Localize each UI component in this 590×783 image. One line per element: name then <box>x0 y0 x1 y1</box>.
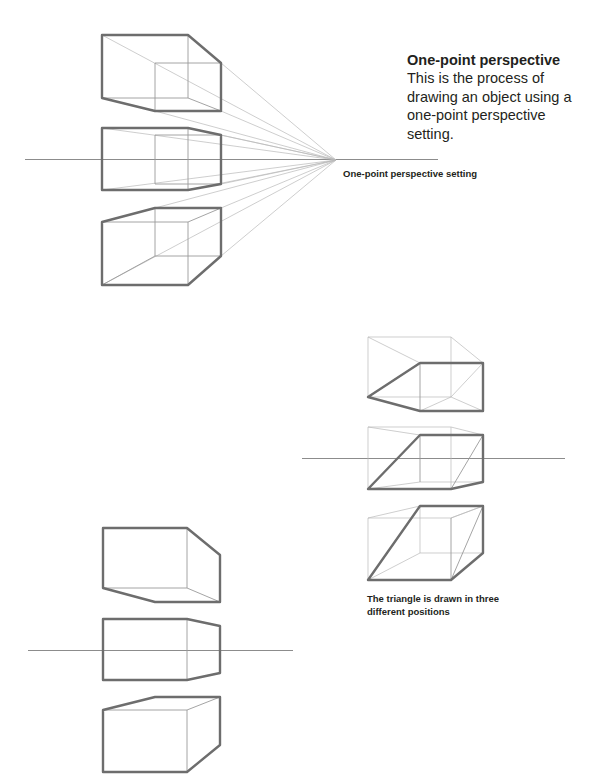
cube-above-horizon <box>102 35 221 111</box>
triangle-cube-below <box>368 506 483 580</box>
intro-body: This is the process of drawing an object… <box>407 69 587 143</box>
figure-one-point-setting <box>25 35 438 285</box>
figure-cube-outlines <box>28 528 293 772</box>
cube-below-horizon <box>102 208 221 285</box>
caption-one-point-setting: One-point perspective setting <box>343 167 477 180</box>
intro-text-block: One-point perspective This is the proces… <box>407 51 587 143</box>
intro-title: One-point perspective <box>407 51 587 69</box>
outline-cube-above <box>103 528 220 602</box>
outline-cube-below <box>103 697 220 772</box>
triangle-cube-above <box>368 337 483 411</box>
caption-triangle-positions: The triangle is drawn in three different… <box>367 592 517 618</box>
figure-triangle-positions <box>302 337 565 580</box>
outline-cube-on-horizon <box>103 619 220 680</box>
